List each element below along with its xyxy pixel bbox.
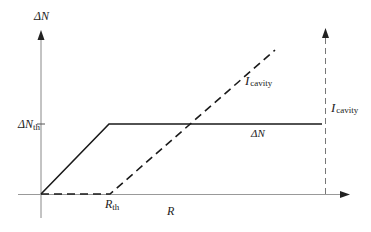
x-axis-arrow-icon <box>340 191 350 198</box>
y-axis-label: ΔN <box>33 9 50 23</box>
right-axis-arrow-icon <box>322 28 329 38</box>
delta-n-curve <box>41 124 322 194</box>
delta-n-curve-label: ΔN <box>250 127 265 139</box>
x-axis-label: R <box>166 204 175 218</box>
cavity-curve-label: Icavity <box>244 73 273 88</box>
right-axis-label: Icavity <box>330 100 359 115</box>
laser-threshold-diagram: ΔN ΔNth Rth R ΔN Icavity Icavity <box>0 0 371 232</box>
y-axis-arrow-icon <box>38 30 45 40</box>
threshold-y-label: ΔNth <box>17 117 41 132</box>
cavity-intensity-curve <box>41 50 275 194</box>
threshold-x-label: Rth <box>104 197 120 212</box>
